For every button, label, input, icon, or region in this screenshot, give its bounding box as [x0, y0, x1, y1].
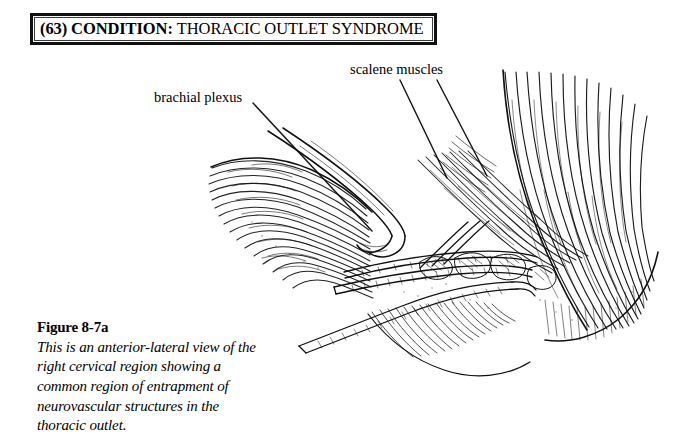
scalene-muscle-hatch: [430, 166, 534, 245]
lower-tissue-fan: [372, 302, 515, 357]
left-muscle-fibers: [209, 161, 373, 298]
condition-header-banner: (63) CONDITION: THORACIC OUTLET SYNDROME: [30, 13, 437, 45]
leader-lines: [253, 80, 487, 231]
condition-name-label: THORACIC OUTLET SYNDROME: [177, 19, 424, 39]
right-muscle-hatch: [512, 100, 626, 298]
figure-caption: Figure 8-7a This is an anterior-lateral …: [37, 318, 267, 436]
right-muscle-fringe: [545, 279, 644, 340]
condition-number-label: (63) CONDITION:: [40, 19, 173, 39]
vessel-shading: [318, 256, 510, 348]
right-muscle-contour: [503, 70, 658, 341]
central-band-shade: [300, 141, 393, 252]
texture-stipple: [251, 221, 633, 321]
annotation-label-scalene-muscles: scalene muscles: [350, 62, 443, 77]
central-band: [268, 128, 405, 257]
left-muscle-edge: [211, 158, 372, 212]
lower-tissue-contour: [368, 314, 530, 376]
figure-caption-body: This is an anterior-lateral view of the …: [37, 338, 267, 436]
bone-structures: [419, 253, 556, 290]
figure-caption-title: Figure 8-7a: [37, 318, 267, 337]
condition-header-inner: (63) CONDITION: THORACIC OUTLET SYNDROME: [34, 17, 433, 41]
annotation-label-brachial-plexus: brachial plexus: [154, 90, 242, 105]
scalene-muscle-fibers: [418, 151, 588, 273]
neurovascular-bundle: [299, 221, 537, 353]
bone-shading: [426, 256, 549, 280]
left-muscle-hatch: [228, 164, 325, 272]
right-muscle-fibers: [505, 72, 654, 329]
upper-fiber-wisps: [443, 136, 496, 192]
